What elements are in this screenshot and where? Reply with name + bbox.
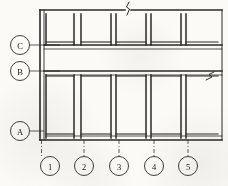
grid-bubble-2-label: 2: [82, 162, 86, 172]
grid-bubble-1-label: 1: [48, 162, 52, 172]
grid-bubble-A-label: A: [17, 127, 24, 137]
grid-bubble-4[interactable]: 4: [145, 157, 164, 176]
grid-bubble-1[interactable]: 1: [41, 157, 60, 176]
grid-bubble-3[interactable]: 3: [110, 157, 129, 176]
grid-bubble-5[interactable]: 5: [179, 157, 198, 176]
grid-bubble-3-label: 3: [117, 162, 121, 172]
plan-canvas: C B A 1 2 3: [0, 0, 228, 186]
grid-bubble-A[interactable]: A: [11, 122, 30, 141]
wall-linework: [40, 10, 222, 140]
upper-room-row: [46, 14, 218, 45]
horizontal-axis-bubbles: C B A: [11, 36, 30, 141]
grid-bubble-C-label: C: [17, 41, 23, 51]
grid-bubble-2[interactable]: 2: [75, 157, 94, 176]
floor-plan-drawing: C B A 1 2 3: [0, 0, 228, 186]
grid-bubble-B-label: B: [17, 67, 23, 77]
top-break-symbol: [127, 2, 130, 15]
grid-bubble-5-label: 5: [186, 162, 190, 172]
vertical-axis-bubbles: 1 2 3 4 5: [41, 157, 198, 176]
grid-bubble-B[interactable]: B: [11, 62, 30, 81]
lower-room-row: [46, 75, 218, 138]
grid-bubble-C[interactable]: C: [11, 36, 30, 55]
break-symbols: [127, 2, 215, 80]
